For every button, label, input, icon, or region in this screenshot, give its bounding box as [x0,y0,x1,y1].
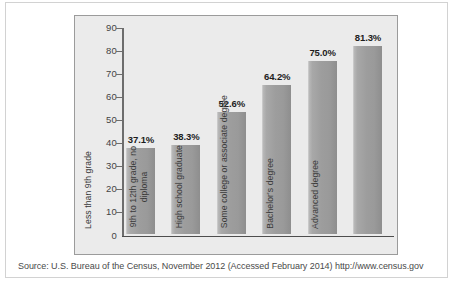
y-axis-tick: 50 [75,114,130,126]
y-axis-tick: 60 [75,91,130,103]
bar-value-label: 64.2% [264,71,290,82]
x-axis-baseline [122,236,394,238]
y-axis-tick: 40 [75,137,130,149]
bar-value-label: 38.3% [173,131,199,142]
y-axis-tick-mark [116,74,122,75]
y-axis-tick: 80 [75,45,130,57]
y-axis-tick: 90 [75,22,130,34]
figure-card: 9080706050403020100 Less than 9th grade3… [5,2,448,278]
bar-category-label: Advanced degree [310,160,426,229]
y-axis-tick-mark [116,120,122,121]
bar: Advanced degree81.3% [353,46,382,233]
y-axis-tick-mark [116,97,122,98]
y-axis-tick-label: 0 [112,230,117,242]
source-note: Source: U.S. Bureau of the Census, Novem… [18,261,423,271]
chart-plot-frame: 9080706050403020100 Less than 9th grade3… [74,15,398,255]
y-axis-tick-mark [116,143,122,144]
y-axis-tick: 0 [75,230,130,242]
chart-plot-area: 9080706050403020100 Less than 9th grade3… [75,16,397,254]
bar-value-label: 81.3% [355,32,381,43]
y-axis-tick-mark [116,28,122,29]
bar-value-label: 75.0% [309,47,335,58]
bar-value-label: 37.1% [128,134,154,145]
y-axis-tick: 70 [75,68,130,80]
y-axis-tick-mark [116,51,122,52]
